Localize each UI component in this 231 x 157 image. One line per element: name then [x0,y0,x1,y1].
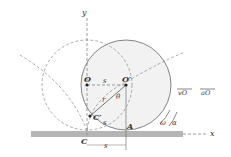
label-s-bottom: s [104,142,108,150]
diagram-canvas: y x O O′ s r θ C′ s C A s vO aO ω α [0,0,231,157]
label-y: y [81,8,87,17]
label-a: A [126,121,133,131]
label-omega: ω [160,119,166,127]
label-x: x [210,129,215,138]
label-alpha: α [172,119,177,127]
label-c: C [81,136,88,146]
label-s-arc: s [103,119,107,127]
ground-surface [31,131,183,137]
label-vo: vO [178,89,188,97]
label-s-top: s [103,77,107,85]
rolling-wheel-diagram: y x O O′ s r θ C′ s C A s vO aO ω α [0,0,231,157]
label-ao: aO [201,89,211,97]
point-c-prime [88,114,91,117]
label-o: O [84,74,91,84]
label-c-prime: C′ [93,112,102,122]
label-o-prime: O′ [122,74,132,84]
